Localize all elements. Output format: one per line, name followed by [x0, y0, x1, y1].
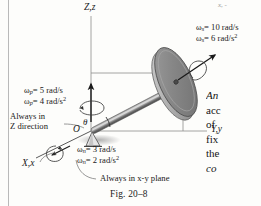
origin-label-o: O [73, 124, 80, 135]
precession-note-line-2: Z direction [10, 122, 48, 132]
spin-alpha-symbol: ω [196, 34, 202, 44]
body-line-6: co [206, 161, 261, 176]
body-line-5: the [206, 146, 261, 161]
precession-alpha-exponent: 2 [63, 95, 66, 102]
axis-label-x: X,x [22, 158, 34, 169]
nutation-note-plane: x-y [137, 173, 148, 183]
nutation-alpha-exponent: 2 [116, 154, 119, 161]
figure-page: Z,z Y,y X,x θ O ωs= 10 rad/s ωs= 6 rad/s… [0, 0, 261, 206]
nutation-note-suffix: plane [149, 173, 170, 183]
axis-label-z: Z,z [84, 2, 95, 13]
precession-omega-value: = 5 rad/s [33, 85, 63, 95]
precession-angular-acceleration-label: ωp= 4 rad/s2 [24, 96, 66, 107]
nutation-alpha-symbol: ω [77, 156, 83, 166]
body-line-1: An [206, 88, 261, 103]
nutation-alpha-value: = 2 rad/s [86, 155, 116, 165]
nutation-note-prefix: Always in [100, 173, 137, 183]
body-line-2: acc [206, 103, 261, 118]
precession-rotation-loop [80, 101, 104, 115]
spinning-disk [142, 41, 207, 126]
angle-label-theta: θ [83, 117, 87, 127]
body-line-3: of [206, 117, 261, 132]
body-text-column: An acc of fix the co [206, 0, 261, 206]
nutation-plane-note: Always in x-y plane [100, 174, 169, 184]
nutation-omega-value: = 3 rad/s [86, 144, 116, 154]
precession-alpha-symbol: ω [24, 97, 30, 107]
figure-caption: Fig. 20–8 [110, 189, 148, 200]
precession-alpha-value: = 4 rad/s [33, 96, 63, 106]
nutation-angular-acceleration-label: ωn= 2 rad/s2 [77, 155, 119, 166]
body-line-4: fix [206, 132, 261, 147]
